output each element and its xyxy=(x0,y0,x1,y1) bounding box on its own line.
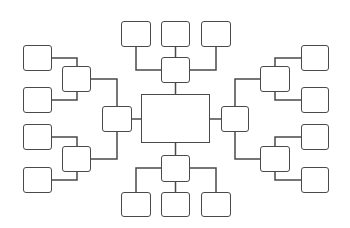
node-right-leaf-1 xyxy=(301,45,329,71)
mind-map-diagram xyxy=(0,0,350,228)
connector-left-hub-to-left-sub-1 xyxy=(91,79,117,106)
connector-right-sub-2-to-right-leaf-3 xyxy=(275,137,301,146)
node-bottom-hub xyxy=(161,155,190,182)
node-right-leaf-2 xyxy=(301,87,329,113)
connector-left-hub-to-left-sub-2 xyxy=(91,132,117,159)
node-right-hub xyxy=(221,106,249,132)
node-bottom-leaf-3 xyxy=(201,192,231,217)
connector-right-hub-to-right-sub-2 xyxy=(235,132,260,159)
connector-right-sub-1-to-right-leaf-1 xyxy=(275,58,301,66)
connector-right-sub-2-to-right-leaf-4 xyxy=(275,172,301,180)
node-bottom-leaf-1 xyxy=(121,192,151,217)
connector-left-sub-1-to-left-leaf-1 xyxy=(52,58,77,66)
node-top-hub xyxy=(161,57,190,83)
node-right-sub-2 xyxy=(260,146,290,172)
connector-bottom-hub-to-bottom-leaf-3 xyxy=(190,168,216,192)
node-left-leaf-1 xyxy=(23,45,52,71)
connector-left-sub-2-to-left-leaf-4 xyxy=(52,172,77,180)
node-top-leaf-1 xyxy=(121,21,151,47)
node-right-sub-1 xyxy=(260,66,290,92)
node-left-sub-1 xyxy=(62,66,91,92)
node-left-leaf-2 xyxy=(23,87,52,113)
node-left-leaf-4 xyxy=(23,167,52,193)
node-top-leaf-3 xyxy=(201,21,231,47)
node-left-sub-2 xyxy=(62,146,91,172)
node-right-leaf-3 xyxy=(301,124,329,150)
node-center xyxy=(141,94,210,143)
connector-left-sub-2-to-left-leaf-3 xyxy=(52,137,77,146)
connector-right-hub-to-right-sub-1 xyxy=(235,79,260,106)
node-bottom-leaf-2 xyxy=(161,192,190,217)
connector-bottom-hub-to-bottom-leaf-1 xyxy=(136,168,161,192)
node-left-hub xyxy=(102,106,132,132)
connector-left-sub-1-to-left-leaf-2 xyxy=(52,92,77,100)
node-right-leaf-4 xyxy=(301,167,329,193)
connector-right-sub-1-to-right-leaf-2 xyxy=(275,92,301,100)
node-left-leaf-3 xyxy=(23,124,52,150)
connector-top-hub-to-top-leaf-1 xyxy=(136,47,161,70)
node-top-leaf-2 xyxy=(161,21,190,47)
connector-top-hub-to-top-leaf-3 xyxy=(190,47,216,70)
